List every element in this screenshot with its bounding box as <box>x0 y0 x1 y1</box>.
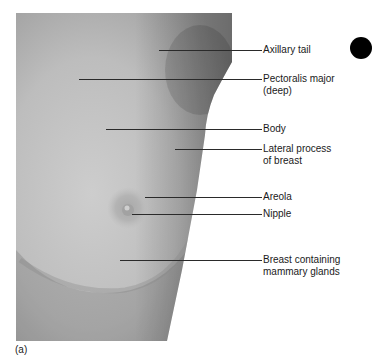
label-axillary-tail: Axillary tail <box>263 44 311 56</box>
section-tab-marker <box>350 37 372 59</box>
leader-line-body <box>106 129 262 130</box>
leader-line-areola <box>145 197 262 198</box>
leader-line-pectoralis-major <box>79 79 262 80</box>
label-line: Nipple <box>263 208 291 220</box>
leader-line-lateral-process <box>175 149 262 150</box>
leader-line-axillary-tail <box>159 50 262 51</box>
leader-line-breast-glands <box>120 260 262 261</box>
label-line: of breast <box>263 155 331 167</box>
label-line: Axillary tail <box>263 44 311 56</box>
label-areola: Areola <box>263 191 292 203</box>
leader-line-nipple <box>132 214 262 215</box>
label-line: Lateral process <box>263 143 331 155</box>
label-lateral-process: Lateral processof breast <box>263 143 331 167</box>
label-pectoralis-major: Pectoralis major(deep) <box>263 73 335 97</box>
label-line: Areola <box>263 191 292 203</box>
label-line: Breast containing <box>263 254 340 266</box>
label-line: Body <box>263 123 286 135</box>
label-line: Pectoralis major <box>263 73 335 85</box>
figure-caption: (a) <box>15 344 27 355</box>
label-line: mammary glands <box>263 266 340 278</box>
label-line: (deep) <box>263 85 335 97</box>
label-nipple: Nipple <box>263 208 291 220</box>
label-body: Body <box>263 123 286 135</box>
label-breast-glands: Breast containingmammary glands <box>263 254 340 278</box>
